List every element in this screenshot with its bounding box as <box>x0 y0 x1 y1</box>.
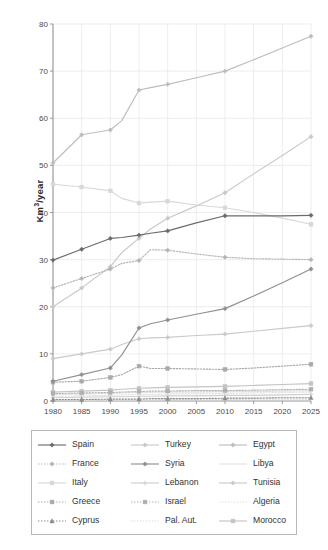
chart-area: 0102030405060708019801985199019952000200… <box>0 0 328 418</box>
series-turkey <box>51 134 313 309</box>
x-tick-label: 2015 <box>245 407 263 416</box>
x-tick-label: 1995 <box>130 407 148 416</box>
legend-item-greece[interactable]: Greece <box>32 492 125 511</box>
series-line <box>53 250 311 288</box>
legend-swatch <box>218 440 248 450</box>
x-tick-label: 2025 <box>302 407 320 416</box>
legend-marker <box>50 500 54 504</box>
series-marker <box>108 347 112 351</box>
y-axis-title-exponent: 3 <box>33 203 40 207</box>
series-marker <box>166 385 170 389</box>
legend-marker <box>50 442 54 446</box>
series-line <box>53 137 311 307</box>
series-marker <box>51 392 55 396</box>
legend-item-algeria[interactable]: Algeria <box>213 492 298 511</box>
y-tick-label: 20 <box>39 303 48 312</box>
legend-label: Egypt <box>253 440 275 449</box>
series-marker <box>309 257 313 261</box>
series-marker <box>165 248 169 252</box>
legend-marker <box>50 461 54 465</box>
series-marker <box>223 69 227 73</box>
legend-item-cyprus[interactable]: Cyprus <box>32 511 125 530</box>
legend-item-italy[interactable]: Italy <box>32 473 125 492</box>
legend-item-spain[interactable]: Spain <box>32 435 125 454</box>
series-marker <box>51 182 55 186</box>
legend-swatch <box>218 459 248 469</box>
legend-swatch <box>37 478 67 488</box>
series-france <box>51 248 313 290</box>
legend-marker <box>143 442 147 446</box>
legend-marker <box>50 481 54 485</box>
series-marker <box>166 199 170 203</box>
legend-label: Cyprus <box>72 516 99 525</box>
legend-swatch <box>218 516 248 526</box>
legend-label: Greece <box>72 497 100 506</box>
legend-item-egypt[interactable]: Egypt <box>213 435 298 454</box>
chart-page: 0102030405060708019801985199019952000200… <box>0 0 328 550</box>
legend-label: France <box>72 459 99 468</box>
legend-item-france[interactable]: France <box>32 454 125 473</box>
legend-item-pal--aut-[interactable]: Pal. Aut. <box>125 511 213 530</box>
legend-label: Syria <box>165 459 185 468</box>
series-tunisia <box>51 323 313 360</box>
x-tick-label: 2005 <box>187 407 205 416</box>
x-axis-ticks: 1980198519901995200020052010201520202025 <box>44 401 320 416</box>
series-marker <box>165 82 169 86</box>
legend-label: Turkey <box>165 440 191 449</box>
y-axis-title-unit: /year <box>34 180 45 203</box>
series-marker <box>137 390 141 394</box>
series-marker <box>108 376 112 380</box>
series-marker <box>223 206 227 210</box>
legend-item-turkey[interactable]: Turkey <box>125 435 213 454</box>
legend-item-syria[interactable]: Syria <box>125 454 213 473</box>
legend-marker <box>143 461 147 465</box>
y-tick-label: 0 <box>44 397 49 406</box>
series-marker <box>309 222 313 226</box>
legend-marker <box>231 442 235 446</box>
series-marker <box>137 88 141 92</box>
legend-label: Italy <box>72 478 88 487</box>
series-marker <box>166 367 170 371</box>
legend-label: Tunisia <box>253 478 280 487</box>
series-marker <box>223 384 227 388</box>
legend-item-morocco[interactable]: Morocco <box>213 511 298 530</box>
x-tick-label: 1980 <box>44 407 62 416</box>
series-marker <box>309 267 313 271</box>
series-marker <box>309 387 313 391</box>
series-marker <box>166 396 170 400</box>
series-italy <box>51 182 313 226</box>
x-tick-label: 2010 <box>216 407 234 416</box>
legend-swatch <box>37 516 67 526</box>
series-marker <box>223 389 227 393</box>
series-marker <box>80 379 84 383</box>
series-marker <box>223 255 227 259</box>
series-marker <box>309 362 313 366</box>
series-marker <box>79 276 83 280</box>
legend-label: Morocco <box>253 516 286 525</box>
series-marker <box>165 335 169 339</box>
series-marker <box>108 391 112 395</box>
series-marker <box>309 323 313 327</box>
series-marker <box>166 389 170 393</box>
legend-swatch <box>37 497 67 507</box>
legend-label: Algeria <box>253 497 280 506</box>
legend-item-lebanon[interactable]: Lebanon <box>125 473 213 492</box>
series-egypt <box>51 34 313 165</box>
series-marker <box>165 318 169 322</box>
series-marker <box>137 364 141 368</box>
series-marker <box>51 258 55 262</box>
legend-item-libya[interactable]: Libya <box>213 454 298 473</box>
x-tick-label: 1990 <box>101 407 119 416</box>
series-syria <box>51 267 313 384</box>
series-marker <box>108 236 112 240</box>
series-marker <box>165 229 169 233</box>
legend-item-tunisia[interactable]: Tunisia <box>213 473 298 492</box>
y-tick-label: 30 <box>39 256 48 265</box>
y-axis-title: Km3/year <box>33 166 45 236</box>
legend-swatch <box>130 459 160 469</box>
legend-marker <box>231 519 235 523</box>
series-marker <box>80 185 84 189</box>
legend: SpainTurkeyEgyptFranceSyriaLibyaItalyLeb… <box>31 430 297 535</box>
legend-item-israel[interactable]: Israel <box>125 492 213 511</box>
series-spain <box>51 213 313 262</box>
